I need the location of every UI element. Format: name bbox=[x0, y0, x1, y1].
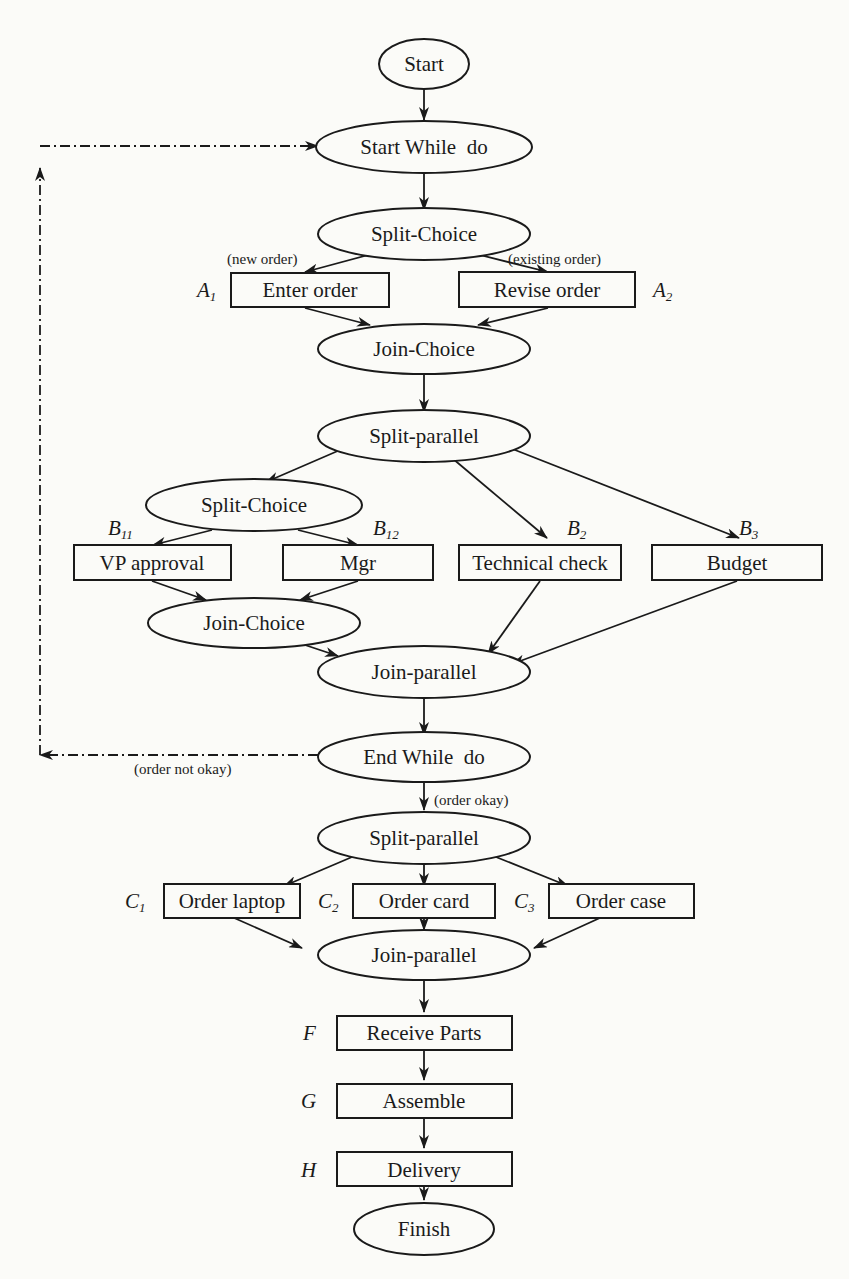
node-assemble: Assemble G bbox=[301, 1084, 512, 1118]
edge-label-order-okay: (order okay) bbox=[434, 792, 509, 809]
svg-text:Delivery: Delivery bbox=[387, 1158, 461, 1182]
edge-mgr-to-joinchoice bbox=[300, 581, 358, 600]
activity-id-c2: C2 bbox=[318, 889, 339, 915]
svg-text:Join-parallel: Join-parallel bbox=[372, 943, 477, 967]
edge-revise-to-join bbox=[478, 308, 548, 325]
activity-id-c3: C3 bbox=[514, 889, 535, 915]
svg-text:Split-Choice: Split-Choice bbox=[201, 493, 307, 517]
edge-split-to-enter bbox=[305, 254, 372, 272]
svg-text:Receive Parts: Receive Parts bbox=[367, 1021, 482, 1045]
activity-id-g: G bbox=[301, 1089, 316, 1113]
svg-text:Start While do: Start While do bbox=[360, 135, 487, 159]
node-delivery: Delivery H bbox=[300, 1152, 512, 1186]
svg-text:Enter order: Enter order bbox=[262, 278, 357, 302]
edge-splitpar-to-splitchoice bbox=[266, 450, 340, 482]
node-order-card: Order card C2 bbox=[318, 884, 495, 918]
node-budget: Budget B3 bbox=[652, 516, 822, 580]
node-join-parallel-2: Join-parallel bbox=[318, 930, 530, 980]
node-start-while: Start While do bbox=[316, 121, 532, 173]
edge-budget-to-joinpar bbox=[512, 581, 737, 664]
svg-text:Split-parallel: Split-parallel bbox=[369, 826, 479, 850]
activity-id-f: F bbox=[302, 1021, 316, 1045]
activity-id-b2: B2 bbox=[567, 516, 587, 542]
svg-text:Revise order: Revise order bbox=[494, 278, 601, 302]
svg-text:Mgr: Mgr bbox=[340, 551, 376, 575]
svg-text:Order laptop: Order laptop bbox=[179, 889, 286, 913]
node-order-case: Order case C3 bbox=[514, 884, 694, 918]
svg-text:Start: Start bbox=[404, 52, 444, 76]
svg-text:Order card: Order card bbox=[379, 889, 470, 913]
svg-text:End While do: End While do bbox=[363, 745, 485, 769]
activity-id-a1: A1 bbox=[195, 278, 216, 304]
activity-id-c1: C1 bbox=[125, 889, 146, 915]
activity-id-b11: B11 bbox=[108, 516, 133, 542]
edge-label-order-not-okay: (order not okay) bbox=[134, 761, 231, 778]
svg-text:Technical check: Technical check bbox=[472, 551, 608, 575]
activity-id-b12: B12 bbox=[373, 516, 399, 542]
node-technical-check: Technical check B2 bbox=[459, 516, 621, 580]
edge-label-new-order: (new order) bbox=[227, 251, 297, 268]
node-split-choice-2: Split-Choice bbox=[146, 479, 362, 531]
activity-id-a2: A2 bbox=[651, 278, 673, 304]
node-join-choice-1: Join-Choice bbox=[318, 324, 530, 374]
edge-splitpar2-to-laptop bbox=[284, 857, 352, 886]
workflow-diagram: Start Start While do Split-Choice (new o… bbox=[0, 0, 849, 1279]
edge-laptop-to-joinpar2 bbox=[232, 917, 302, 948]
node-join-parallel-1: Join-parallel bbox=[318, 646, 530, 698]
node-start: Start bbox=[379, 39, 469, 89]
svg-text:Split-Choice: Split-Choice bbox=[371, 222, 477, 246]
node-order-laptop: Order laptop C1 bbox=[125, 884, 300, 918]
svg-text:VP approval: VP approval bbox=[100, 551, 205, 575]
edge-splitpar-to-technical bbox=[452, 458, 547, 538]
edge-splitchoice-to-vp bbox=[153, 530, 212, 545]
node-join-choice-2: Join-Choice bbox=[148, 598, 360, 648]
svg-text:Finish: Finish bbox=[398, 1217, 451, 1241]
edge-splitpar-to-budget bbox=[510, 448, 739, 538]
activity-id-h: H bbox=[300, 1158, 318, 1182]
svg-text:Order case: Order case bbox=[576, 889, 666, 913]
node-finish: Finish bbox=[354, 1203, 494, 1255]
node-revise-order: Revise order A2 bbox=[459, 272, 673, 307]
edge-splitpar2-to-case bbox=[496, 857, 568, 886]
node-enter-order: Enter order A1 bbox=[195, 273, 389, 307]
node-split-parallel-2: Split-parallel bbox=[318, 812, 530, 864]
edge-splitchoice-to-mgr bbox=[298, 530, 358, 545]
svg-text:Assemble: Assemble bbox=[383, 1089, 466, 1113]
edge-technical-to-joinpar bbox=[488, 581, 540, 654]
activity-id-b3: B3 bbox=[739, 516, 759, 542]
svg-text:Split-parallel: Split-parallel bbox=[369, 424, 479, 448]
node-receive-parts: Receive Parts F bbox=[302, 1016, 512, 1050]
node-split-choice-1: Split-Choice bbox=[318, 208, 530, 260]
svg-text:Join-Choice: Join-Choice bbox=[373, 337, 474, 361]
edge-vp-to-joinchoice bbox=[152, 581, 206, 600]
edge-enter-to-join bbox=[305, 308, 370, 325]
edge-label-existing-order: (existing order) bbox=[508, 251, 601, 268]
edge-case-to-joinpar2 bbox=[534, 917, 602, 948]
svg-text:Join-Choice: Join-Choice bbox=[203, 611, 304, 635]
node-end-while: End While do bbox=[318, 732, 530, 782]
svg-text:Join-parallel: Join-parallel bbox=[372, 660, 477, 684]
node-split-parallel-1: Split-parallel bbox=[318, 410, 530, 462]
svg-text:Budget: Budget bbox=[707, 551, 768, 575]
